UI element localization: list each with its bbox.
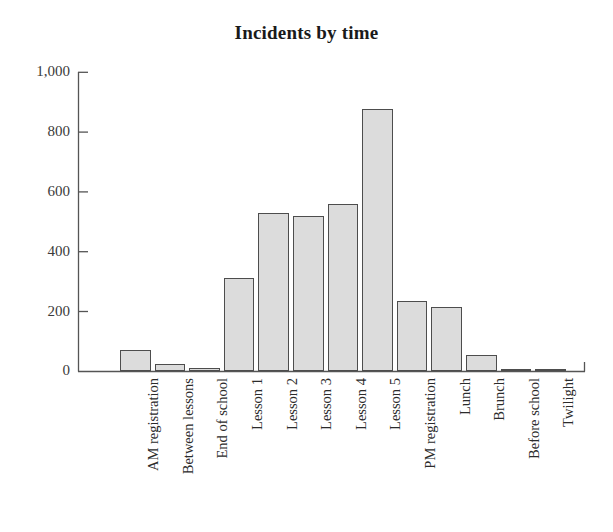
y-tick-label: 1,000 (8, 63, 70, 80)
bar (431, 307, 462, 371)
x-category-label-text: Lesson 3 (319, 378, 334, 430)
x-category-label: Between lessons (176, 378, 191, 474)
bar (155, 364, 186, 371)
bar (293, 216, 324, 371)
bar (258, 213, 289, 371)
x-category-label-text: Lunch (458, 378, 473, 415)
x-category-label: Brunch (487, 378, 502, 421)
x-category-label-text: End of school (215, 378, 230, 459)
x-category-label: Twilight (556, 378, 571, 427)
x-category-label-text: PM registration (423, 378, 438, 469)
x-category-label: Lesson 5 (383, 378, 398, 430)
x-category-label-text: Brunch (492, 378, 507, 421)
x-category-label: End of school (210, 378, 225, 459)
x-category-label-text: Lesson 5 (388, 378, 403, 430)
y-tick-label: 800 (8, 123, 70, 140)
bar (224, 278, 255, 371)
x-category-label: Before school (522, 378, 537, 459)
bar (501, 369, 532, 372)
bar (466, 355, 497, 371)
bar-chart: Incidents by time 1,000 800 600 400 200 … (0, 0, 613, 532)
bar (328, 204, 359, 371)
bar (189, 368, 220, 371)
bar (120, 350, 151, 371)
x-category-label-text: Before school (527, 378, 542, 459)
y-tick-label: 0 (8, 362, 70, 379)
x-category-label: Lesson 4 (349, 378, 364, 430)
y-tick-label: 600 (8, 183, 70, 200)
y-tick-label: 400 (8, 243, 70, 260)
x-axis-category-labels: AM registrationBetween lessonsEnd of sch… (78, 378, 585, 532)
x-category-label-text: Lesson 4 (354, 378, 369, 430)
bar (535, 369, 566, 372)
bar (397, 301, 428, 371)
bar (362, 109, 393, 371)
x-category-label-text: Twilight (561, 378, 576, 427)
x-category-label-text: Lesson 1 (250, 378, 265, 430)
x-category-label: Lesson 3 (314, 378, 329, 430)
x-category-label-text: AM registration (146, 378, 161, 471)
y-axis-tick-labels: 1,000 800 600 400 200 0 (0, 0, 70, 532)
x-category-label: Lunch (453, 378, 468, 415)
x-category-label: Lesson 2 (280, 378, 295, 430)
x-category-label: PM registration (418, 378, 433, 469)
x-category-label-text: Lesson 2 (285, 378, 300, 430)
chart-title: Incidents by time (0, 22, 613, 44)
x-category-label-text: Between lessons (181, 378, 196, 474)
y-tick-label: 200 (8, 303, 70, 320)
x-category-label: AM registration (141, 378, 156, 471)
x-category-label: Lesson 1 (245, 378, 260, 430)
bar-series (78, 72, 585, 371)
